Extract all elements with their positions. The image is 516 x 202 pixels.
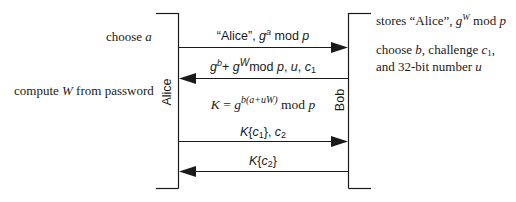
key-formula: K = gb(a+uW) mod p [178, 97, 348, 113]
msg4-label: K{c2} [178, 154, 348, 168]
arrow-msg2 [179, 73, 349, 84]
arrow-msg1 [179, 42, 349, 53]
msg2-label: gb+ gWmod p, u, c1 [178, 60, 348, 74]
note-stores: stores “Alice”, gW mod p [376, 13, 506, 28]
note-choose-b: choose b, challenge c1, and 32-bit numbe… [376, 42, 495, 74]
alice-label: Alice [160, 72, 174, 112]
msg3-label: K{c1}, c2 [178, 125, 348, 139]
note-compute-w: compute W from password [14, 83, 154, 98]
msg1-label: “Alice”, ga mod p [178, 29, 348, 43]
note-choose-a: choose a [106, 29, 152, 44]
bob-lifeline [349, 13, 372, 189]
